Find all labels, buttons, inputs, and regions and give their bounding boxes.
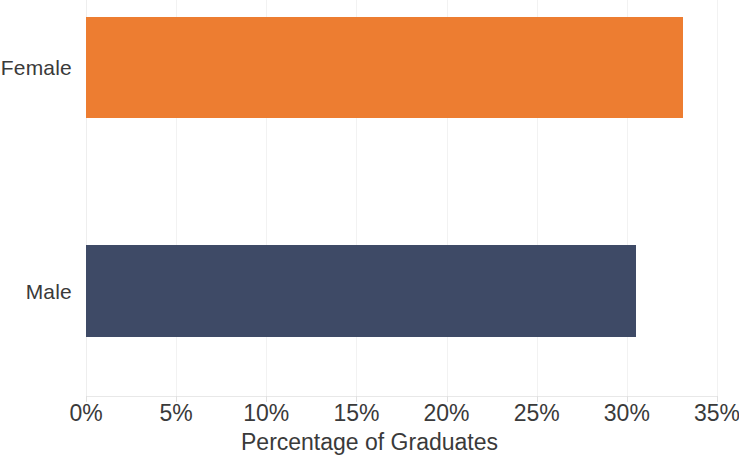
x-tick-label-35: 35% xyxy=(694,400,739,427)
bar-female xyxy=(86,17,683,118)
x-tick-label-15: 15% xyxy=(333,400,379,427)
category-label-female: Female xyxy=(1,56,72,79)
x-tick-label-30: 30% xyxy=(604,400,650,427)
bar-male xyxy=(86,245,636,337)
x-axis-title: Percentage of Graduates xyxy=(0,429,739,456)
category-label-female-wrap: Female xyxy=(0,56,72,80)
x-tick-label-20: 20% xyxy=(424,400,470,427)
x-tick-label-0: 0% xyxy=(69,400,102,427)
plot-area xyxy=(86,0,717,396)
category-label-male: Male xyxy=(26,280,72,303)
bar-chart: Female Male 0% 5% 10% 15% 20% 25% 30% 35… xyxy=(0,0,739,458)
x-tick-label-25: 25% xyxy=(514,400,560,427)
x-axis-line xyxy=(86,396,717,397)
category-label-male-wrap: Male xyxy=(0,280,72,304)
x-tick-label-5: 5% xyxy=(160,400,193,427)
x-tick-label-10: 10% xyxy=(243,400,289,427)
gridline-35 xyxy=(717,0,718,396)
